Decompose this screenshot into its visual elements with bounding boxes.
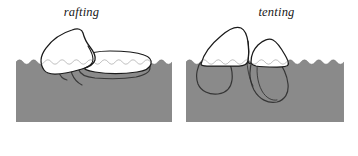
rafting-illustration — [0, 0, 179, 156]
figure-root: rafting — [0, 0, 358, 156]
water-body — [186, 60, 344, 122]
panel-label-rafting: rafting — [0, 4, 171, 20]
tenting-illustration — [179, 0, 358, 156]
floe-tenting-left — [201, 27, 249, 66]
panel-tenting: tenting — [179, 0, 358, 156]
panel-label-tenting: tenting — [187, 4, 358, 20]
panel-rafting: rafting — [0, 0, 179, 156]
